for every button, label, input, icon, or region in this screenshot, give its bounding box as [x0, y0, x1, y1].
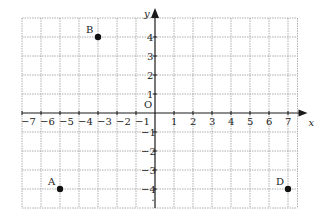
y-tick-label: −2 [141, 146, 156, 157]
x-axis-label: x [309, 117, 315, 128]
y-tick-label: 2 [147, 70, 153, 81]
point-label: A [47, 176, 56, 187]
y-tick-label: −3 [141, 165, 156, 176]
plotted-points: ABD [47, 24, 291, 192]
coordinate-plane: xyO −7−6−5−4−3−2−112345674321−1−2−3−4 AB… [0, 0, 321, 220]
origin-label: O [144, 99, 152, 110]
y-tick-label: −1 [141, 127, 156, 138]
x-tick-label: −4 [78, 116, 93, 127]
axes: xyO [22, 8, 315, 208]
point-D: D [276, 176, 291, 192]
x-tick-label: 2 [190, 116, 196, 127]
y-tick-label: −4 [141, 184, 156, 195]
x-tick-label: 4 [228, 116, 234, 127]
point-marker-icon [95, 34, 101, 40]
x-axis-arrow-icon [299, 110, 308, 117]
x-tick-label: 7 [285, 116, 291, 127]
x-tick-label: −2 [116, 116, 131, 127]
y-axis-label: y [143, 8, 150, 19]
x-tick-label: 5 [247, 116, 253, 127]
y-axis-arrow-icon [151, 8, 159, 18]
point-label: B [86, 24, 93, 35]
point-A: A [47, 176, 63, 192]
point-marker-icon [57, 186, 63, 192]
y-tick-label: 4 [147, 32, 153, 43]
x-tick-label: 1 [171, 116, 177, 127]
point-marker-icon [285, 186, 291, 192]
x-tick-label: 6 [266, 116, 272, 127]
x-tick-label: −1 [135, 116, 150, 127]
tick-labels: −7−6−5−4−3−2−112345674321−1−2−3−4 [21, 32, 291, 201]
x-tick-label: −7 [21, 116, 36, 127]
x-tick-label: −6 [40, 116, 55, 127]
x-tick-label: −5 [59, 116, 74, 127]
point-label: D [276, 176, 284, 187]
x-tick-label: 3 [209, 116, 215, 127]
y-tick-label: 1 [147, 89, 153, 100]
x-tick-label: −3 [97, 116, 112, 127]
stray-mark [152, 200, 154, 202]
point-B: B [86, 24, 101, 40]
y-tick-label: 3 [147, 51, 153, 62]
